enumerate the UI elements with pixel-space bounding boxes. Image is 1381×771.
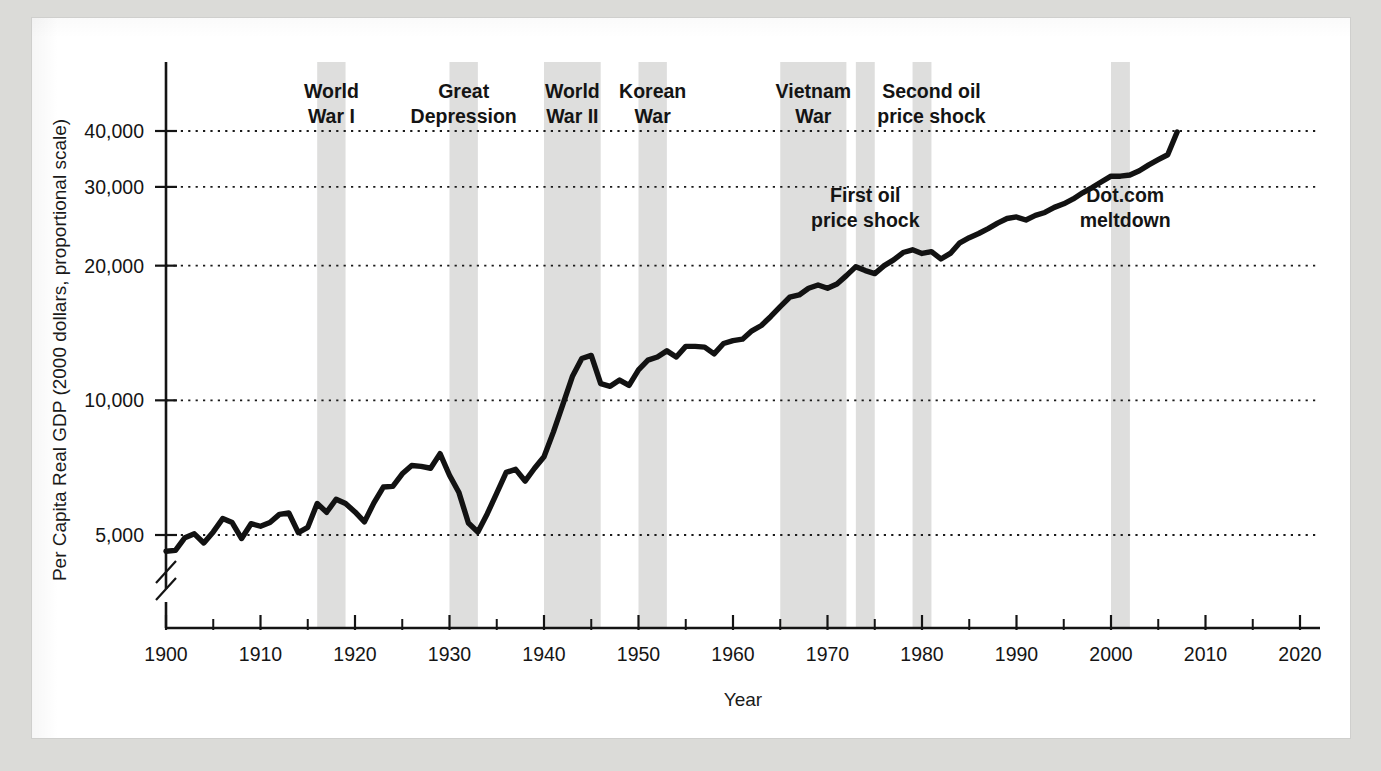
annotation-label-vietnam: Vietnam xyxy=(776,80,852,102)
shaded-band xyxy=(1111,62,1130,628)
shaded-band xyxy=(544,62,601,628)
x-tick-label: 1960 xyxy=(711,643,755,665)
annotation-label-korea: Korean xyxy=(619,80,686,102)
y-tick-label: 20,000 xyxy=(84,255,144,277)
x-tick-label: 1970 xyxy=(806,643,850,665)
shaded-band xyxy=(856,62,875,628)
annotation-label-dotcom: Dot.com xyxy=(1086,184,1164,206)
y-tick-label: 10,000 xyxy=(84,389,144,411)
shaded-band xyxy=(450,62,478,628)
annotations-group: WorldWar IGreatDepressionWorldWar IIKore… xyxy=(304,80,1171,231)
x-tick-label: 2010 xyxy=(1184,643,1228,665)
x-tick-label: 1980 xyxy=(900,643,944,665)
annotation-label-depression: Depression xyxy=(411,105,517,127)
annotation-label-ww2: War II xyxy=(546,105,598,127)
x-tick-label: 1940 xyxy=(522,643,566,665)
y-tick-label: 5,000 xyxy=(95,524,144,546)
x-tick-label: 2000 xyxy=(1089,643,1133,665)
shaded-band xyxy=(317,62,345,628)
annotation-label-vietnam: War xyxy=(795,105,832,127)
x-tick-label: 1900 xyxy=(144,643,188,665)
y-tick-label: 40,000 xyxy=(84,120,144,142)
annotation-label-oil2: Second oil xyxy=(882,80,981,102)
chart-svg: 5,00010,00020,00030,00040,000 1900191019… xyxy=(0,0,1381,771)
x-tick-label: 1920 xyxy=(333,643,377,665)
x-tick-label: 1950 xyxy=(617,643,661,665)
page-background: 5,00010,00020,00030,00040,000 1900191019… xyxy=(0,0,1381,771)
annotation-label-dotcom: meltdown xyxy=(1080,209,1171,231)
y-tick-label: 30,000 xyxy=(84,176,144,198)
annotation-label-oil1: price shock xyxy=(811,209,920,231)
shaded-band xyxy=(780,62,846,628)
x-tick-label: 2020 xyxy=(1278,643,1322,665)
y-ticks-group: 5,00010,00020,00030,00040,000 xyxy=(84,120,177,546)
annotation-label-ww1: World xyxy=(304,80,359,102)
annotation-label-oil1: First oil xyxy=(830,184,900,206)
gdp-line-chart: 5,00010,00020,00030,00040,000 1900191019… xyxy=(0,0,1381,771)
annotation-label-ww2: World xyxy=(545,80,600,102)
shaded-band xyxy=(913,62,932,628)
annotation-label-ww1: War I xyxy=(308,105,355,127)
y-axis-title: Per Capita Real GDP (2000 dollars, propo… xyxy=(49,119,70,581)
shaded-band xyxy=(639,62,667,628)
x-tick-label: 1990 xyxy=(995,643,1039,665)
x-tick-label: 1930 xyxy=(428,643,472,665)
annotation-label-depression: Great xyxy=(438,80,489,102)
annotation-label-korea: War xyxy=(635,105,672,127)
annotation-label-oil2: price shock xyxy=(877,105,986,127)
x-axis-title: Year xyxy=(724,689,763,710)
x-tick-label: 1910 xyxy=(239,643,283,665)
